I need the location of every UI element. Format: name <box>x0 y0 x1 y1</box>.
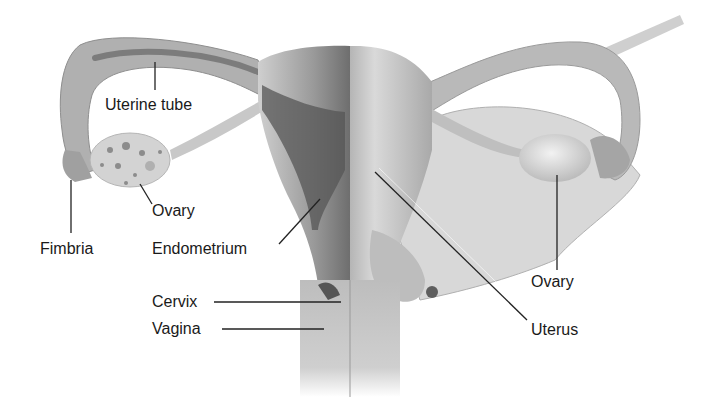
left-ovary <box>90 133 170 187</box>
label-fimbria: Fimbria <box>40 240 93 258</box>
label-cervix: Cervix <box>152 293 197 311</box>
label-endometrium: Endometrium <box>152 240 247 258</box>
right-ovary <box>519 134 591 182</box>
reproductive-anatomy-diagram: Uterine tube Ovary Fimbria Endometrium C… <box>0 0 714 397</box>
label-uterus: Uterus <box>531 321 578 339</box>
anatomy-illustration <box>0 0 714 397</box>
broad-ligament <box>400 107 640 300</box>
ligament-cut-end <box>426 286 438 298</box>
label-uterine-tube: Uterine tube <box>105 96 192 114</box>
label-vagina: Vagina <box>152 320 201 338</box>
label-ovary-right: Ovary <box>531 273 574 291</box>
label-ovary-left: Ovary <box>152 202 195 220</box>
